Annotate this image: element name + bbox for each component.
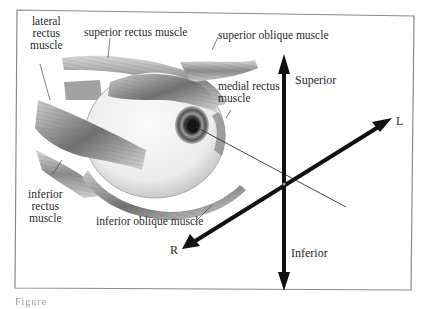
label-superior-oblique: superior oblique muscle [218,29,329,41]
label-line: rectus [30,27,63,39]
label-lateral-rectus: lateral rectus muscle [30,15,63,51]
pupil [187,119,199,133]
label-line: lateral [30,15,63,27]
superior-oblique-muscle [180,60,258,82]
label-line: muscle [218,92,280,104]
figure-caption: Figure [15,296,47,307]
arrowhead-superior [278,54,290,74]
label-line: muscle [30,39,63,51]
lateral-stub [64,80,102,100]
label-line: rectus [28,200,62,212]
label-superior-rectus: superior rectus muscle [84,26,187,38]
label-line: inferior [28,188,62,200]
axis-origin [283,183,286,186]
arrowhead-inferior [278,272,290,291]
label-line: muscle [28,212,62,224]
axis-label-inferior: Inferior [291,246,328,261]
label-inferior-rectus: inferior rectus muscle [28,188,62,224]
axis-label-right: R [170,243,178,258]
axis-label-superior: Superior [295,73,336,88]
label-medial-rectus: medial rectus muscle [218,80,280,104]
axis-label-left: L [396,114,403,129]
label-inferior-oblique: inferior oblique muscle [96,215,203,227]
label-line: medial rectus [218,80,280,92]
